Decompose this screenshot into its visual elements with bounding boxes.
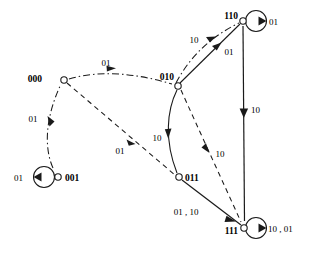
- arrow-head-icon: [34, 173, 42, 182]
- self-loop-110: [246, 11, 267, 32]
- arrow-head-icon: [206, 37, 216, 43]
- self-loop-labels-layer: 01 01 10 , 01: [14, 17, 293, 234]
- node-011[interactable]: [176, 174, 182, 180]
- edge-label-110-to-111: 10: [251, 105, 261, 115]
- edge-010-to-011: [165, 90, 177, 173]
- self-loop-111: [246, 218, 267, 239]
- self-loop-label-110: 01: [269, 17, 278, 27]
- node-110[interactable]: [240, 18, 246, 24]
- node-label-000: 000: [28, 74, 43, 84]
- arrow-head-icon: [212, 43, 222, 51]
- node-010[interactable]: [175, 83, 181, 89]
- edge-labels-layer: 01 01 01 10 01 10 10 10 01 , 10: [29, 35, 261, 217]
- node-111[interactable]: [241, 225, 247, 231]
- arrow-head-icon: [259, 17, 267, 26]
- arrow-head-icon: [240, 109, 249, 119]
- node-label-110: 110: [224, 11, 238, 21]
- arrow-head-icon: [202, 143, 210, 153]
- edge-label-000-to-010: 01: [102, 58, 111, 68]
- self-loops-layer: [34, 11, 267, 239]
- node-000[interactable]: [61, 77, 67, 83]
- edge-label-010-to-110-a: 10: [190, 35, 200, 45]
- edge-110-to-111: [240, 26, 249, 221]
- edge-001-to-000: [47, 84, 61, 168]
- edge-label-010-to-011: 10: [153, 133, 163, 143]
- edges-layer: [47, 23, 248, 225]
- edge-000-to-011: [67, 83, 175, 175]
- arrow-head-icon: [259, 224, 267, 233]
- edge-path: [243, 26, 245, 221]
- node-label-111: 111: [225, 226, 238, 236]
- edge-label-010-to-111: 10: [216, 149, 226, 159]
- edge-path: [182, 180, 241, 225]
- node-label-011: 011: [185, 173, 199, 183]
- edge-011-to-111: [182, 180, 241, 225]
- edge-path: [67, 83, 175, 175]
- state-transition-graph: 000 001 010 011 110 111 01 01 10 , 01 01…: [0, 0, 309, 253]
- edge-path: [69, 74, 172, 84]
- edge-label-010-to-110-b: 01: [225, 47, 234, 57]
- self-loop-label-111: 10 , 01: [268, 224, 293, 234]
- edge-label-000-to-011: 01: [116, 146, 125, 156]
- arrow-head-icon: [127, 140, 136, 146]
- node-label-001: 001: [65, 173, 80, 183]
- arrow-head-icon: [165, 129, 172, 139]
- node-001[interactable]: [55, 174, 61, 180]
- self-loop-label-001: 01: [14, 173, 23, 183]
- self-loop-001: [34, 167, 55, 188]
- diagram-canvas: 000 001 010 011 110 111 01 01 10 , 01 01…: [0, 0, 309, 253]
- edge-path: [47, 84, 61, 168]
- edge-label-001-to-000: 01: [29, 114, 38, 124]
- node-label-010: 010: [160, 72, 175, 82]
- nodes-layer: [55, 18, 247, 231]
- edge-label-011-to-111: 01 , 10: [174, 207, 199, 217]
- edge-000-to-010: [69, 66, 172, 84]
